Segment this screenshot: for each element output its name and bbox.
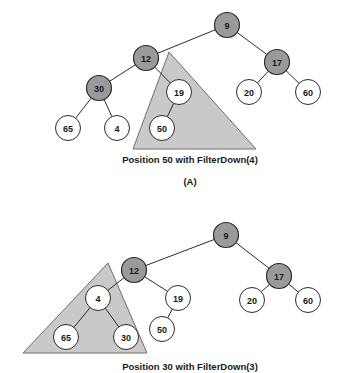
node-label: 60 <box>303 296 313 306</box>
tree-node-9: 9 <box>215 13 240 38</box>
panel-a-label: (A) <box>183 176 196 187</box>
tree-node-4: 4 <box>105 116 130 141</box>
tree-node-9: 9 <box>214 223 239 248</box>
tree-node-19: 19 <box>166 286 191 311</box>
tree-node-20: 20 <box>240 288 265 313</box>
node-label: 20 <box>244 88 254 98</box>
tree-node-20: 20 <box>237 80 262 105</box>
node-label: 12 <box>141 54 151 64</box>
node-label: 9 <box>224 21 229 31</box>
tree-node-12: 12 <box>134 46 159 71</box>
node-label: 30 <box>94 84 104 94</box>
node-label: 17 <box>272 58 282 68</box>
panel-b-caption: Position 30 with FilterDown(3) <box>122 361 258 372</box>
node-label: 65 <box>61 333 71 343</box>
node-label: 17 <box>274 272 284 282</box>
tree-node-12: 12 <box>122 258 147 283</box>
node-label: 19 <box>173 294 183 304</box>
node-label: 19 <box>174 88 184 98</box>
panel-a-caption: Position 50 with FilterDown(4) <box>122 154 258 165</box>
node-label: 30 <box>121 333 131 343</box>
tree-node-17: 17 <box>265 50 290 75</box>
node-label: 60 <box>303 88 313 98</box>
node-label: 50 <box>157 124 167 134</box>
tree-node-19: 19 <box>167 80 192 105</box>
tree-node-30: 30 <box>114 325 139 350</box>
tree-node-17: 17 <box>267 264 292 289</box>
tree-node-60: 60 <box>296 80 321 105</box>
tree-node-60: 60 <box>296 288 321 313</box>
heap-filterdown-figure: 912173019206065450 Position 50 with Filt… <box>0 0 337 373</box>
node-label: 12 <box>129 266 139 276</box>
node-label: 50 <box>157 325 167 335</box>
tree-node-50: 50 <box>150 317 175 342</box>
tree-node-4: 4 <box>86 286 111 311</box>
node-label: 65 <box>63 124 73 134</box>
tree-node-65: 65 <box>54 325 79 350</box>
tree-node-30: 30 <box>87 76 112 101</box>
node-label: 4 <box>114 124 119 134</box>
node-label: 4 <box>95 294 100 304</box>
tree-node-65: 65 <box>56 116 81 141</box>
node-label: 20 <box>247 296 257 306</box>
tree-node-50: 50 <box>150 116 175 141</box>
node-label: 9 <box>223 231 228 241</box>
